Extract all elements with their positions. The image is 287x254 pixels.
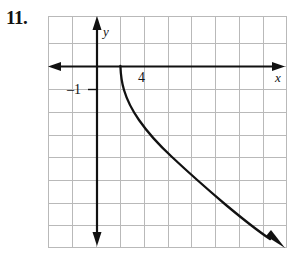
tick-label-four: 4 bbox=[138, 70, 145, 85]
graph-svg: y x –1 4 bbox=[0, 0, 287, 254]
graph-background bbox=[48, 16, 287, 248]
textbook-problem-figure: 11. bbox=[0, 0, 287, 254]
tick-label-minus-one: –1 bbox=[66, 82, 81, 97]
coordinate-graph: y x –1 4 bbox=[0, 0, 287, 254]
y-axis-label: y bbox=[101, 24, 109, 39]
x-axis-label: x bbox=[274, 70, 281, 85]
